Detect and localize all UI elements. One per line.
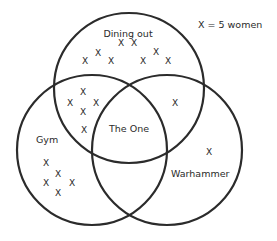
x-mark: X (140, 56, 146, 66)
x-mark: X (131, 38, 137, 48)
venn-circles (17, 13, 242, 225)
x-mark: X (95, 48, 101, 58)
x-mark: X (69, 178, 75, 188)
x-mark: X (93, 98, 99, 108)
x-mark: X (108, 56, 114, 66)
x-mark: X (118, 38, 124, 48)
center-label-the-one: The One (108, 123, 149, 134)
legend-text: X = 5 women (198, 19, 262, 30)
x-mark: X (80, 87, 86, 97)
x-mark: X (172, 98, 178, 108)
x-mark: X (206, 147, 212, 157)
x-mark: X (43, 158, 49, 168)
venn-diagram: XXXXXXXXXXXXXXXXXXXX Dining out Gym Warh… (0, 0, 277, 241)
x-mark: X (55, 169, 61, 179)
set-label-dining-out: Dining out (103, 28, 153, 39)
set-label-warhammer: Warhammer (171, 168, 230, 179)
x-mark: X (80, 107, 86, 117)
x-mark: X (43, 178, 49, 188)
x-mark: X (55, 188, 61, 198)
x-mark: X (81, 125, 87, 135)
x-mark: X (67, 98, 73, 108)
set-label-gym: Gym (36, 134, 58, 145)
x-mark: X (165, 56, 171, 66)
x-mark: X (82, 56, 88, 66)
x-mark: X (153, 47, 159, 57)
